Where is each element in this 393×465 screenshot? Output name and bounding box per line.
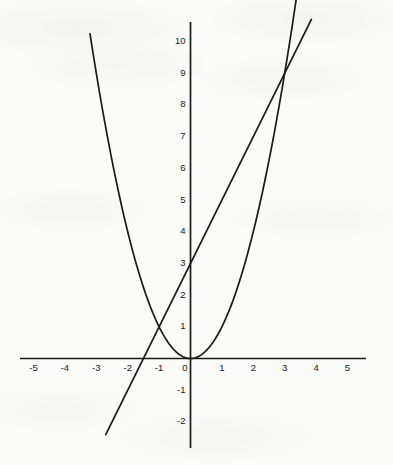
graph-figure: -5-4-3-2-1012345 -2-112345678910 xyxy=(0,0,393,465)
x-tick-label: -2 xyxy=(123,362,131,373)
x-tick-label: 3 xyxy=(282,362,287,373)
x-tick-label: -5 xyxy=(29,362,37,373)
y-tick-label: 2 xyxy=(180,289,185,300)
x-tick-label: 4 xyxy=(313,362,318,373)
x-tick-label: -1 xyxy=(155,362,163,373)
x-tick-label: 0 xyxy=(182,362,187,373)
curve-parabola xyxy=(90,0,299,358)
y-tick-label: 10 xyxy=(175,35,186,46)
x-tick-label: 1 xyxy=(219,362,224,373)
curve-line xyxy=(106,19,312,434)
cartesian-plot: -5-4-3-2-1012345 -2-112345678910 xyxy=(0,0,393,465)
y-tick-label: 3 xyxy=(180,257,185,268)
y-tick-label: -2 xyxy=(177,415,185,426)
y-tick-label: 9 xyxy=(180,67,185,78)
y-tick-label: 5 xyxy=(180,194,185,205)
y-tick-label: 6 xyxy=(180,162,185,173)
y-tick-label: 8 xyxy=(180,98,185,109)
x-tick-label: 5 xyxy=(345,362,350,373)
x-tick-label: 2 xyxy=(251,362,256,373)
x-tick-label: -3 xyxy=(92,362,100,373)
y-tick-label: -1 xyxy=(177,384,185,395)
y-tick-label: 1 xyxy=(180,320,185,331)
x-tick-label: -4 xyxy=(61,362,69,373)
y-tick-label: 7 xyxy=(180,130,185,141)
y-tick-label: 4 xyxy=(180,225,185,236)
